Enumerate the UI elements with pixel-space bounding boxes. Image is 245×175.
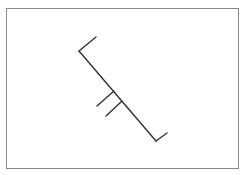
bottom-arm-segment	[156, 133, 167, 141]
top-arm-segment	[79, 37, 96, 51]
tick-2-segment	[106, 101, 122, 116]
main-line-segment	[79, 51, 156, 141]
line-drawing	[0, 0, 245, 175]
tick-1-segment	[97, 91, 114, 106]
